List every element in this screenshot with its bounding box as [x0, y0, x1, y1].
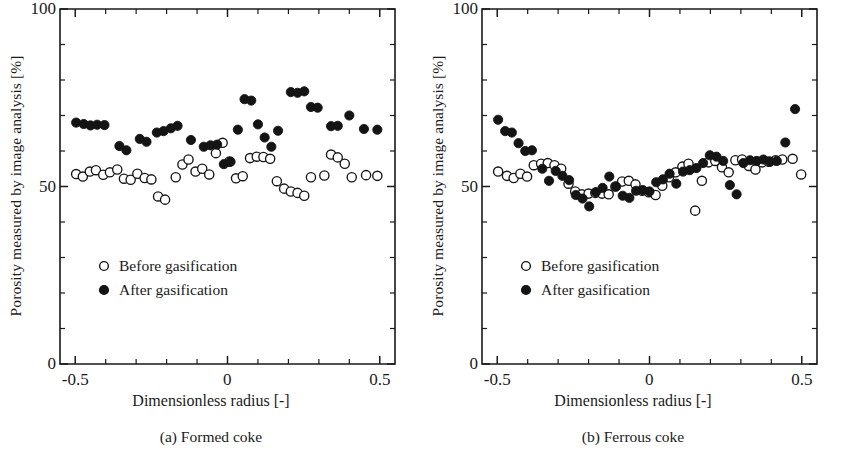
x-tick-label-05-b: 0.5 — [791, 371, 812, 388]
legend-label-before-b: Before gasification — [541, 258, 659, 274]
filled-circle-icon — [96, 282, 112, 298]
legend-item-after-a: After gasification — [96, 280, 237, 301]
legend-b: Before gasification After gasification — [518, 256, 659, 304]
y-tick-label-100-b: 100 — [453, 0, 479, 17]
panel-formed-coke: Porosity measured by image analysis [%] … — [0, 0, 422, 454]
legend-item-after-b: After gasification — [518, 280, 659, 301]
x-tick-label-0-b: 0 — [645, 371, 654, 388]
legend-label-before-a: Before gasification — [119, 258, 237, 274]
x-axis-label-b: Dimensionless radius [-] — [422, 392, 844, 410]
y-axis-label-a: Porosity measured by image analysis [%] — [7, 56, 25, 317]
filled-circle-icon — [518, 282, 534, 298]
x-tick-label-neg05-b: -0.5 — [484, 371, 511, 388]
y-tick-label-50-b: 50 — [461, 178, 478, 195]
panel-caption-b: (b) Ferrous coke — [422, 428, 844, 446]
legend-item-before-a: Before gasification — [96, 256, 237, 277]
y-axis-label-b: Porosity measured by image analysis [%] — [429, 56, 447, 317]
legend-item-before-b: Before gasification — [518, 256, 659, 277]
legend-label-after-a: After gasification — [119, 282, 228, 298]
series-after — [494, 105, 800, 211]
open-circle-icon — [518, 258, 534, 274]
x-tick-label-0-a: 0 — [223, 371, 232, 388]
y-tick-label-50-a: 50 — [39, 178, 56, 195]
y-tick-label-100-a: 100 — [31, 0, 57, 17]
panel-caption-a: (a) Formed coke — [0, 428, 422, 446]
open-circle-icon — [96, 258, 112, 274]
x-tick-label-05-a: 0.5 — [369, 371, 390, 388]
x-axis-label-a: Dimensionless radius [-] — [0, 392, 422, 410]
y-axis-label-wrap-b: Porosity measured by image analysis [%] — [424, 0, 452, 372]
legend-label-after-b: After gasification — [541, 282, 650, 298]
x-tick-label-neg05-a: -0.5 — [62, 371, 89, 388]
y-tick-label-0-a: 0 — [48, 355, 57, 372]
y-tick-label-0-b: 0 — [470, 355, 479, 372]
figure-container: Porosity measured by image analysis [%] … — [0, 0, 844, 454]
y-axis-label-wrap-a: Porosity measured by image analysis [%] — [2, 0, 30, 372]
legend-a: Before gasification After gasification — [96, 256, 237, 304]
panel-ferrous-coke: Porosity measured by image analysis [%] … — [422, 0, 844, 454]
